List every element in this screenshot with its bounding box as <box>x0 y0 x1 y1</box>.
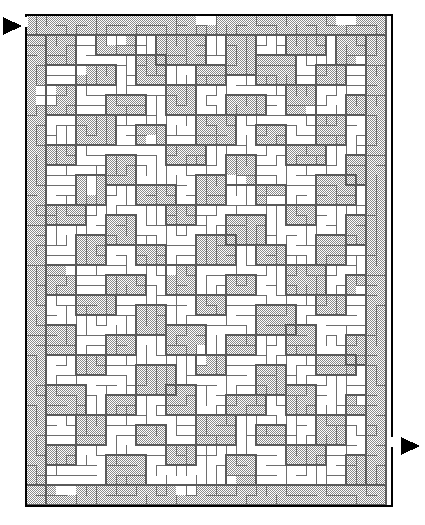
shaded-region <box>46 325 76 355</box>
shaded-region <box>286 325 316 355</box>
shaded-region <box>196 175 226 205</box>
white-patch <box>356 185 366 205</box>
white-patch <box>86 455 106 465</box>
shaded-region <box>316 235 346 265</box>
shaded-region <box>106 155 136 185</box>
white-patch <box>336 15 356 25</box>
shaded-region <box>76 415 106 445</box>
white-patch <box>146 415 166 425</box>
maze-canvas <box>0 0 425 525</box>
white-patch <box>266 195 286 205</box>
white-patch <box>236 295 256 305</box>
shaded-region <box>106 215 136 245</box>
white-patch <box>196 15 216 25</box>
maze-page: Rectangular Maze <box>0 0 425 525</box>
shaded-region <box>166 385 196 415</box>
white-patch <box>46 355 66 365</box>
entrance-gap <box>25 17 28 27</box>
white-patch <box>56 485 76 495</box>
white-patch <box>86 175 96 195</box>
white-patch <box>286 235 306 245</box>
shaded-region <box>136 55 166 85</box>
shaded-region <box>316 415 346 445</box>
shaded-region <box>46 385 86 415</box>
shaded-region <box>226 35 256 75</box>
shaded-region <box>316 115 346 145</box>
shaded-region <box>136 305 166 335</box>
maze-figure <box>0 0 425 525</box>
shaded-region <box>256 365 286 395</box>
white-patch <box>326 465 346 475</box>
exit-gap <box>390 437 393 447</box>
shaded-region <box>46 35 76 65</box>
shaded-region <box>286 385 316 415</box>
shaded-region <box>76 235 106 265</box>
shaded-region <box>166 85 196 115</box>
